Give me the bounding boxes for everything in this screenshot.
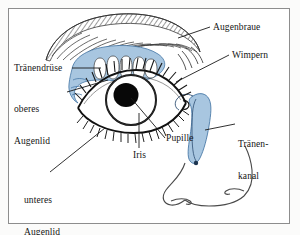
- label-pupille: Pupille: [166, 133, 194, 144]
- label-unteres-augenlid: unteres Augenlid: [24, 174, 60, 235]
- label-traenenkanal-line1: Tränen-: [238, 139, 268, 150]
- label-augenbraue: Augenbraue: [213, 22, 260, 33]
- label-wimpern: Wimpern: [232, 50, 268, 61]
- label-iris: Iris: [133, 150, 146, 161]
- label-traenenkanal-line2: kanal: [238, 171, 268, 182]
- eye-anatomy-diagram: Augenbraue Wimpern Tränendrüse oberes Au…: [0, 0, 300, 235]
- label-traenendruese: Tränendrüse: [14, 63, 62, 74]
- label-oberes-augenlid: oberes Augenlid: [14, 83, 50, 167]
- label-traenenkanal: Tränen- kanal: [238, 118, 268, 202]
- label-oberes-augenlid-line1: oberes: [14, 104, 50, 115]
- label-unteres-augenlid-line1: unteres: [24, 195, 60, 206]
- label-unteres-augenlid-line2: Augenlid: [24, 227, 60, 236]
- label-oberes-augenlid-line2: Augenlid: [14, 136, 50, 147]
